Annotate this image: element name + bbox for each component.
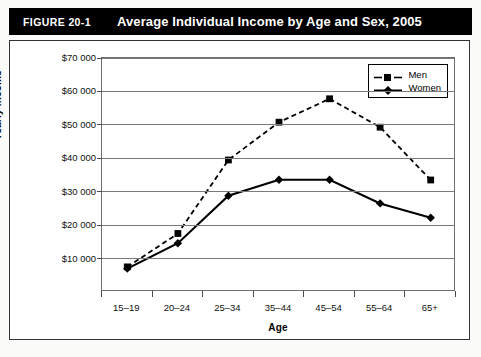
x-axis-tick xyxy=(253,291,254,297)
x-axis-tick xyxy=(303,291,304,297)
y-axis-tick-label: $50 000 xyxy=(62,118,96,129)
y-axis-tick xyxy=(97,258,102,259)
figure-container: FIGURE 20-1 Average Individual Income by… xyxy=(0,0,481,357)
gridline xyxy=(102,58,454,59)
figure-title: Average Individual Income by Age and Sex… xyxy=(117,14,422,29)
x-axis-category-label: 65+ xyxy=(422,302,438,313)
data-point-women-3 xyxy=(275,175,283,183)
y-axis-tick-label: $60 000 xyxy=(62,85,96,96)
y-axis-tick-labels: $10 000$20 000$30 000$40 000$50 000$60 0… xyxy=(22,57,96,291)
x-axis-tick xyxy=(101,291,102,297)
y-axis-tick-label: $30 000 xyxy=(62,185,96,196)
x-axis-category-label: 45–54 xyxy=(315,302,341,313)
data-point-men-6 xyxy=(427,177,434,184)
gridline xyxy=(102,258,454,259)
gridline xyxy=(102,225,454,226)
x-axis-category-label: 15–19 xyxy=(113,302,139,313)
gridline xyxy=(102,158,454,159)
x-axis-category-label: 35–44 xyxy=(265,302,291,313)
y-axis-tick-label: $40 000 xyxy=(62,152,96,163)
legend-swatch-men-dashed-square-icon xyxy=(373,69,403,80)
x-axis-tick xyxy=(354,291,355,297)
y-axis-tick xyxy=(97,58,102,59)
legend-item-men: Men xyxy=(373,68,441,81)
gridline xyxy=(102,91,454,92)
x-axis-category-label: 20–24 xyxy=(164,302,190,313)
y-axis-tick xyxy=(97,158,102,159)
y-axis-title: Yearly income xyxy=(0,70,3,140)
y-axis-tick xyxy=(97,191,102,192)
x-axis-category-label: 25–34 xyxy=(214,302,240,313)
x-axis-tick xyxy=(152,291,153,297)
y-axis-tick-label: $70 000 xyxy=(62,52,96,63)
data-point-women-6 xyxy=(427,214,435,222)
plot-area: Men Women xyxy=(101,57,455,291)
chart-legend: Men Women xyxy=(368,64,448,98)
data-point-women-5 xyxy=(376,199,384,207)
data-point-men-4 xyxy=(326,95,333,102)
data-point-women-4 xyxy=(325,175,333,183)
y-axis-tick xyxy=(97,225,102,226)
figure-header-bar: FIGURE 20-1 Average Individual Income by… xyxy=(9,8,472,35)
gridline xyxy=(102,191,454,192)
data-point-men-1 xyxy=(175,230,182,237)
y-axis-tick xyxy=(97,124,102,125)
legend-label-men: Men xyxy=(408,69,426,80)
y-axis-tick-label: $20 000 xyxy=(62,219,96,230)
x-axis-tick xyxy=(455,291,456,297)
figure-number: FIGURE 20-1 xyxy=(23,16,91,28)
gridline xyxy=(102,124,454,125)
x-axis-category-label: 55–64 xyxy=(366,302,392,313)
legend-item-women: Women xyxy=(373,81,441,94)
y-axis-tick xyxy=(97,91,102,92)
x-axis-tick xyxy=(202,291,203,297)
x-axis-tick xyxy=(404,291,405,297)
x-axis-title: Age xyxy=(101,322,455,333)
y-axis-tick-label: $10 000 xyxy=(62,252,96,263)
